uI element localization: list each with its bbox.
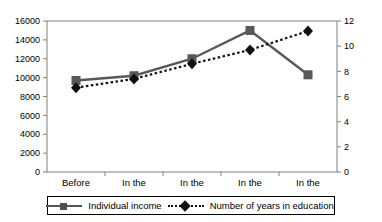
right-axis-tick-label: 8 (344, 67, 349, 77)
left-axis-tick-label: 0 (35, 167, 40, 177)
left-axis-tick-label: 14000 (15, 35, 40, 45)
category-label: In the (296, 177, 320, 188)
category-label: In the (122, 177, 146, 188)
data-point-diamond (303, 26, 313, 37)
category-label: 1980s (295, 188, 321, 190)
right-axis-tick-label: 2 (344, 142, 349, 152)
left-axis-tick-label: 8000 (20, 92, 40, 102)
category-axis-labels: Before1949In the1950sIn the1960sIn the19… (62, 172, 321, 190)
axes-group (47, 21, 337, 172)
right-axis-tick-labels: 024681012 (337, 16, 354, 177)
legend-label-income: Individual income (84, 200, 165, 211)
data-series-group (71, 26, 313, 94)
legend-label-education: Number of years in education (206, 200, 338, 211)
right-axis-tick-label: 0 (344, 167, 349, 177)
category-label: In the (238, 177, 262, 188)
category-label: 1949 (65, 188, 86, 190)
left-axis-tick-label: 10000 (15, 73, 40, 83)
right-axis-tick-label: 12 (344, 16, 354, 26)
line-chart-svg: 0200040006000800010000120001400016000 02… (0, 0, 382, 190)
left-axis-tick-label: 16000 (15, 16, 40, 26)
plot-border (47, 21, 337, 172)
data-point-square (304, 70, 313, 79)
plot-area-wrapper: 0200040006000800010000120001400016000 02… (0, 0, 382, 190)
solid-line-square-marker-icon (44, 201, 84, 211)
legend-item-income: Individual income (44, 200, 165, 211)
category-label: 1970s (237, 188, 263, 190)
left-axis-tick-labels: 0200040006000800010000120001400016000 (15, 16, 47, 177)
category-label: 1960s (179, 188, 205, 190)
right-axis-tick-label: 4 (344, 117, 349, 127)
right-axis-tick-label: 6 (344, 92, 349, 102)
left-axis-tick-label: 2000 (20, 148, 40, 158)
category-label: 1950s (121, 188, 147, 190)
chart-root: 0200040006000800010000120001400016000 02… (0, 0, 382, 222)
data-point-square (246, 26, 255, 35)
category-label: In the (180, 177, 204, 188)
right-axis-tick-label: 10 (344, 41, 354, 51)
chart-legend: Individual income Number of years in edu… (47, 196, 335, 215)
left-axis-tick-label: 4000 (20, 129, 40, 139)
left-axis-tick-label: 6000 (20, 111, 40, 121)
category-label: Before (62, 177, 90, 188)
left-axis-tick-label: 12000 (15, 54, 40, 64)
dotted-line-diamond-marker-icon (166, 201, 206, 211)
legend-item-education: Number of years in education (166, 200, 338, 211)
data-point-diamond (245, 44, 255, 55)
